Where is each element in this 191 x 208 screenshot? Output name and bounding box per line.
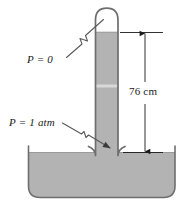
mercury-column xyxy=(96,32,119,153)
label-pressure-vacuum-text: P = 0 xyxy=(27,53,53,65)
label-column-height-text: 76 cm xyxy=(129,85,157,97)
label-column-height: 76 cm xyxy=(129,85,157,97)
mercury-reservoir xyxy=(29,153,176,198)
barometer-illustration xyxy=(0,0,191,208)
column-highlight-band xyxy=(96,85,119,88)
label-pressure-vacuum: P = 0 xyxy=(27,53,53,65)
label-pressure-atmosphere: P = 1 atm xyxy=(9,116,55,128)
label-pressure-atmosphere-text: P = 1 atm xyxy=(9,116,55,128)
barometer-figure: P = 0 P = 1 atm 76 cm xyxy=(0,0,191,208)
